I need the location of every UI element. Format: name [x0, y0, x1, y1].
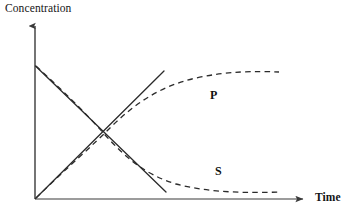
- substrate-curve-label: S: [215, 165, 222, 177]
- x-axis-label: Time: [315, 192, 341, 204]
- substrate-initial-rate-tangent: [36, 66, 167, 192]
- product-initial-rate-tangent: [36, 71, 165, 199]
- plot-area: [0, 0, 347, 214]
- y-axis-label: Concentration: [5, 3, 71, 15]
- product-curve-label: P: [210, 89, 217, 101]
- product-curve: [36, 72, 279, 198]
- figure-canvas: Concentration Time P S: [0, 0, 347, 214]
- substrate-curve: [36, 66, 281, 192]
